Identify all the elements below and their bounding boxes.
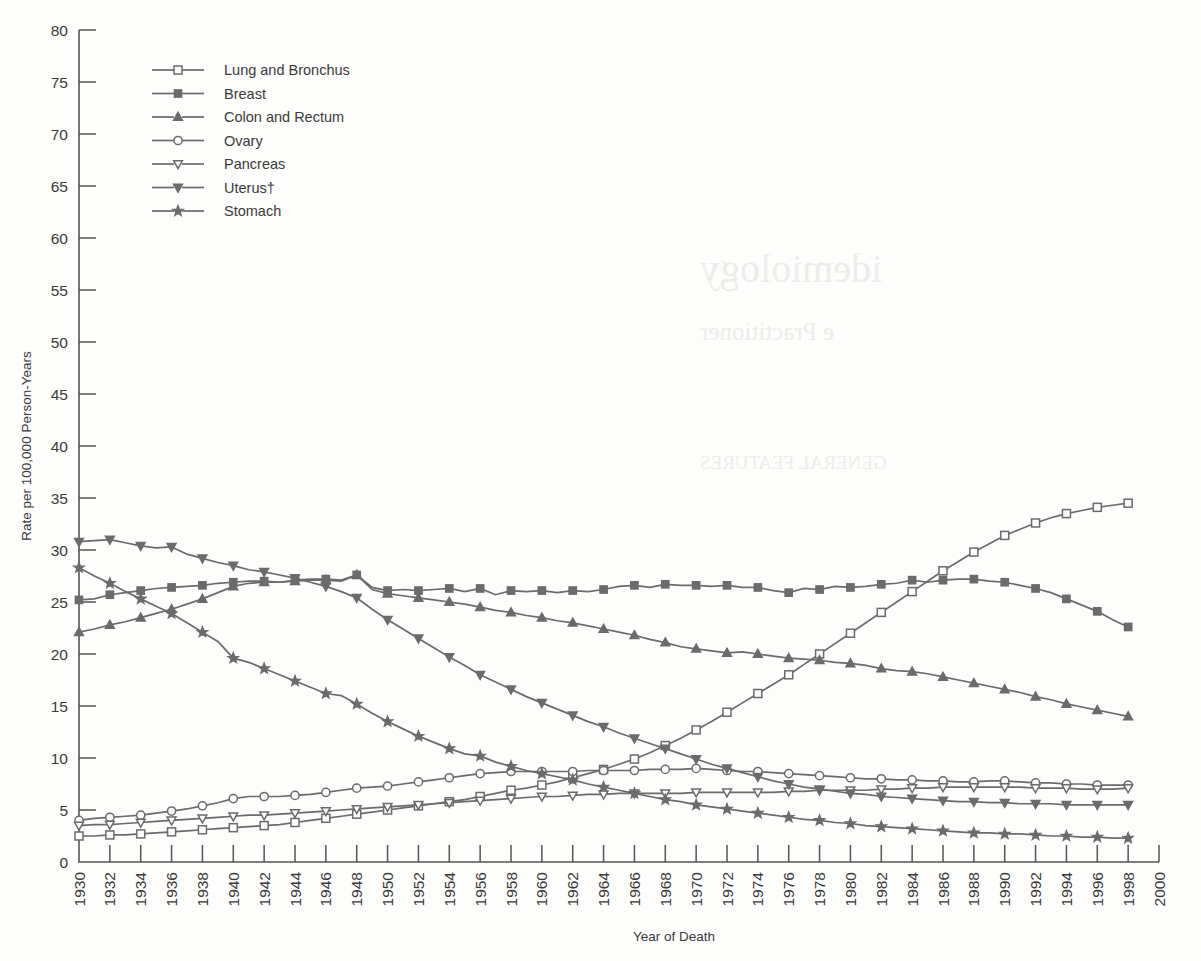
marker-open-square [229,824,237,832]
marker-open-circle [322,788,330,796]
legend-label: Uterus† [224,180,275,196]
marker-open-square [198,826,206,834]
marker-open-square [174,66,182,74]
y-tick-label: 30 [51,542,69,559]
marker-filled-star [691,800,701,809]
y-tick-label: 45 [51,386,68,403]
marker-filled-star [321,688,331,697]
marker-filled-square [1063,595,1070,602]
marker-filled-triangle-down [414,635,423,643]
marker-filled-star [660,794,670,803]
legend-item-stomach[interactable]: Stomach [152,203,281,219]
legend-label: Lung and Bronchus [224,62,350,78]
x-tick-label: 1936 [163,872,180,906]
y-tick-label: 80 [51,22,69,39]
x-tick-label: 1962 [564,872,581,906]
marker-filled-star [815,815,825,824]
marker-filled-square [538,587,545,594]
legend-item-colon-and-rectum[interactable]: Colon and Rectum [152,109,344,125]
legend-label: Colon and Rectum [224,109,344,125]
legend-item-lung-and-bronchus[interactable]: Lung and Bronchus [152,62,350,78]
marker-open-square [754,690,762,698]
y-tick-label: 0 [59,854,68,871]
x-tick-label: 1950 [379,872,396,907]
x-tick-label: 1972 [719,872,736,906]
legend-item-ovary[interactable]: Ovary [152,133,263,149]
legend-label: Breast [224,86,266,102]
y-tick-label: 25 [51,594,68,611]
marker-filled-star [969,828,979,837]
series-path [79,575,1128,716]
marker-filled-star [413,731,423,740]
marker-open-circle [908,776,916,784]
y-tick-label: 10 [51,750,69,767]
marker-filled-square [1032,585,1039,592]
marker-open-circle [599,766,607,774]
marker-open-square [1062,510,1070,518]
marker-open-square [137,830,145,838]
cancer-mortality-line-chart: idemiologye PractitionerGENERAL FEATURES… [0,0,1201,961]
marker-open-circle [167,807,175,815]
y-tick-label: 70 [51,126,69,143]
marker-filled-star [444,743,454,752]
marker-open-square [939,567,947,575]
marker-filled-square [909,577,916,584]
marker-filled-square [1001,579,1008,586]
marker-open-square [785,671,793,679]
x-tick-label: 1934 [132,872,149,907]
marker-open-circle [476,770,484,778]
marker-open-square [291,818,299,826]
y-axis-title: Rate per 100,000 Person-Years [19,351,34,541]
marker-filled-star [1123,833,1133,842]
y-tick-label: 35 [51,490,68,507]
marker-filled-square [631,582,638,589]
marker-open-circle [198,802,206,810]
series-layer [74,499,1133,842]
marker-filled-star [259,663,269,672]
x-tick-label: 1986 [935,872,952,906]
x-tick-label: 1982 [873,872,890,906]
marker-open-square [1032,519,1040,527]
marker-filled-square [754,584,761,591]
marker-open-square [538,781,546,789]
marker-filled-star [290,676,300,685]
marker-open-square [1124,499,1132,507]
x-tick-label: 1948 [348,872,365,906]
x-tick-label: 1964 [595,872,612,907]
marker-open-triangle-down [75,822,84,830]
marker-open-circle [661,765,669,773]
legend-item-uterus[interactable]: Uterus† [152,180,275,196]
marker-open-circle [846,774,854,782]
marker-open-square [507,786,515,794]
legend-item-breast[interactable]: Breast [152,86,266,102]
x-tick-label: 1942 [256,872,273,906]
x-tick-label: 1984 [904,872,921,907]
legend-item-pancreas[interactable]: Pancreas [152,156,285,172]
marker-open-square [75,832,83,840]
x-tick-label: 1976 [780,872,797,906]
marker-filled-star [1000,829,1010,838]
marker-filled-star [784,812,794,821]
x-tick-label: 1960 [533,872,550,907]
x-tick-label: 1974 [749,872,766,907]
marker-open-circle [229,794,237,802]
marker-filled-triangle-down [352,595,361,603]
x-tick-label: 1996 [1089,872,1106,906]
marker-open-circle [877,775,885,783]
y-tick-label: 40 [51,438,69,455]
x-tick-label: 1952 [410,872,427,906]
marker-filled-triangle-down [383,616,392,624]
x-tick-label: 1944 [287,872,304,907]
axes [79,30,1159,862]
marker-filled-star [938,826,948,835]
x-tick-label: 1946 [317,872,334,906]
marker-filled-star [876,821,886,830]
marker-open-circle [445,774,453,782]
marker-open-circle [291,791,299,799]
marker-filled-square [878,581,885,588]
x-tick-label: 1978 [811,872,828,906]
marker-filled-square [446,585,453,592]
marker-open-circle [353,784,361,792]
marker-filled-square [847,584,854,591]
marker-filled-square [1125,623,1132,630]
